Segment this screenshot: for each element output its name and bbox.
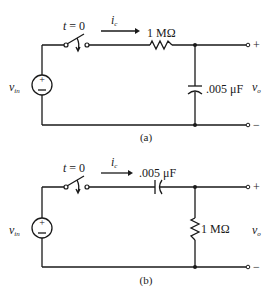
svg-text:+: +: [39, 217, 45, 228]
minus-sign: −: [253, 118, 260, 132]
switch-time-label: t= 0: [63, 19, 85, 33]
caption-b: (b): [140, 274, 153, 287]
resistor-label: 1 MΩ: [147, 26, 176, 40]
capacitor-label: .005 μF: [206, 82, 243, 96]
output-terminal-minus: [246, 123, 250, 127]
node-dot: [193, 185, 197, 189]
current-arrow-icon: [101, 170, 133, 176]
source-label: vin: [9, 223, 20, 238]
capacitor-label: .005 μF: [139, 166, 176, 180]
output-terminal-plus: [246, 185, 250, 189]
switch-icon: [64, 176, 89, 193]
resistor-label: 1 MΩ: [201, 222, 230, 236]
circuit-b: + vin t= 0 ic .005 μF 1 MΩ + −: [9, 155, 261, 287]
node-dot: [193, 265, 197, 269]
voltage-source-icon: +: [32, 74, 52, 95]
current-label: ic: [111, 13, 118, 28]
current-label: ic: [111, 155, 118, 170]
output-label: vo: [252, 80, 261, 95]
svg-text:+: +: [39, 74, 45, 85]
circuit-a: + vin t= 0 ic 1 MΩ .005 μF: [9, 13, 261, 144]
switch-icon: [64, 34, 89, 51]
switch-time-label: t= 0: [63, 161, 85, 175]
voltage-source-icon: +: [32, 217, 52, 238]
plus-sign: +: [253, 180, 260, 194]
minus-sign: −: [253, 260, 260, 274]
resistor-icon: [150, 41, 172, 49]
output-terminal-minus: [246, 265, 250, 269]
node-dot: [193, 43, 197, 47]
output-terminal-plus: [246, 43, 250, 47]
circuit-figure: + vin t= 0 ic 1 MΩ .005 μF: [0, 0, 277, 295]
output-label: vo: [252, 223, 261, 238]
plus-sign: +: [253, 38, 260, 52]
source-label: vin: [9, 80, 20, 95]
caption-a: (a): [140, 131, 153, 144]
current-arrow-icon: [101, 28, 140, 34]
node-dot: [193, 123, 197, 127]
resistor-icon: [191, 218, 199, 240]
